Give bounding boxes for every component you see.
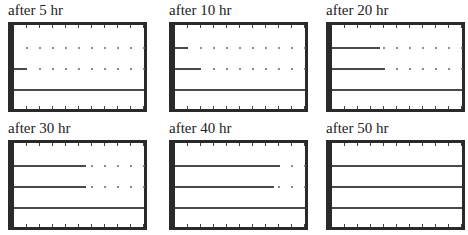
grid-tick: [461, 25, 462, 28]
grid-dot: [291, 47, 293, 49]
grid-tick: [213, 25, 214, 28]
panel-label: after 30 hr: [8, 120, 70, 136]
grid-tick: [409, 106, 410, 109]
panel-frame: [8, 22, 147, 112]
grid-tick: [117, 106, 118, 109]
grid-tick: [422, 224, 423, 227]
grid-dot: [91, 68, 93, 70]
grid-tick: [26, 25, 27, 28]
grid-tick: [252, 106, 253, 109]
grid-tick: [39, 224, 40, 227]
grid-tick: [226, 106, 227, 109]
grid-dot: [52, 68, 54, 70]
grid-dot: [130, 165, 132, 167]
grid-tick: [143, 224, 144, 227]
grid-tick: [91, 106, 92, 109]
grid-tick: [344, 25, 345, 28]
grid-tick: [200, 143, 201, 146]
grid-dot: [117, 68, 119, 70]
grid-tick: [396, 224, 397, 227]
grid-tick: [226, 25, 227, 28]
grid-tick: [187, 143, 188, 146]
grid-tick: [435, 25, 436, 28]
grid-tick: [200, 25, 201, 28]
grid-tick: [265, 25, 266, 28]
grid-tick: [409, 143, 410, 146]
grid-dot: [117, 47, 119, 49]
grid-dot: [39, 68, 41, 70]
grid-tick: [383, 25, 384, 28]
grid-dot: [383, 47, 385, 49]
progress-line: [14, 89, 144, 91]
grid-tick: [143, 25, 144, 28]
grid-dot: [130, 186, 132, 188]
grid-dot: [291, 68, 293, 70]
grid-dot: [448, 68, 450, 70]
grid-tick: [278, 143, 279, 146]
grid-tick: [52, 106, 53, 109]
grid-tick: [291, 106, 292, 109]
grid-tick: [117, 143, 118, 146]
grid-dot: [278, 47, 280, 49]
grid-tick: [104, 143, 105, 146]
grid-tick: [409, 224, 410, 227]
grid-tick: [187, 106, 188, 109]
grid-tick: [291, 25, 292, 28]
grid-dot: [78, 47, 80, 49]
progress-line: [332, 207, 462, 209]
grid-tick: [448, 224, 449, 227]
grid-tick: [91, 224, 92, 227]
grid-tick: [26, 106, 27, 109]
grid-tick: [422, 106, 423, 109]
grid-dot: [65, 68, 67, 70]
progress-line: [332, 89, 462, 91]
grid-dot: [200, 47, 202, 49]
grid-dot: [252, 47, 254, 49]
grid-tick: [370, 25, 371, 28]
progress-line: [175, 47, 188, 49]
grid-tick: [117, 25, 118, 28]
panel-label: after 10 hr: [169, 2, 231, 18]
grid-tick: [370, 143, 371, 146]
grid-tick: [226, 143, 227, 146]
grid-dot: [104, 186, 106, 188]
grid-tick: [213, 224, 214, 227]
grid-dot: [422, 47, 424, 49]
grid-tick: [265, 106, 266, 109]
grid-tick: [383, 106, 384, 109]
grid-tick: [200, 106, 201, 109]
grid-dot: [143, 47, 145, 49]
grid-tick: [344, 143, 345, 146]
grid-tick: [383, 224, 384, 227]
grid-dot: [130, 47, 132, 49]
grid-tick: [435, 106, 436, 109]
progress-line: [175, 89, 305, 91]
grid-tick: [265, 143, 266, 146]
grid-tick: [435, 224, 436, 227]
grid-tick: [39, 143, 40, 146]
progress-line: [14, 68, 27, 70]
grid-dot: [143, 68, 145, 70]
grid-dot: [130, 68, 132, 70]
grid-tick: [39, 106, 40, 109]
grid-dot: [39, 47, 41, 49]
progress-line: [175, 68, 201, 70]
panel-frame: [8, 140, 147, 230]
grid-dot: [265, 68, 267, 70]
grid-dot: [396, 47, 398, 49]
panel-label: after 40 hr: [169, 120, 231, 136]
grid-dot: [78, 68, 80, 70]
grid-tick: [239, 143, 240, 146]
grid-dot: [448, 47, 450, 49]
grid-dot: [143, 186, 145, 188]
progress-line: [14, 186, 86, 188]
grid-dot: [278, 186, 280, 188]
grid-tick: [130, 106, 131, 109]
grid-dot: [291, 165, 293, 167]
grid-tick: [278, 106, 279, 109]
progress-line: [332, 47, 380, 49]
grid-tick: [226, 224, 227, 227]
grid-tick: [104, 106, 105, 109]
grid-tick: [357, 25, 358, 28]
grid-tick: [461, 143, 462, 146]
